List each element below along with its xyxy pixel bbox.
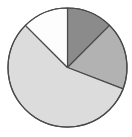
pie-chart-figure [0,0,132,137]
pie-chart-svg [0,0,132,137]
